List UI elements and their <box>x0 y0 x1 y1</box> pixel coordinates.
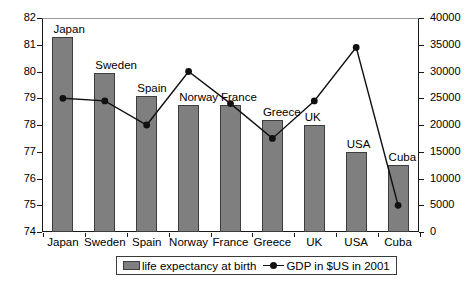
bar-swatch-icon <box>123 261 140 270</box>
y-right-tick-mark <box>419 45 424 46</box>
y-right-tick-mark <box>419 152 424 153</box>
y-right-tick-label: 15000 <box>430 146 461 157</box>
y-right-tick-mark <box>419 205 424 206</box>
y-left-tick-mark <box>37 232 42 233</box>
y-left-tick-label: 75 <box>24 199 36 210</box>
y-axis-left: 747576777879808182 <box>0 0 36 283</box>
legend-label-life-expectancy: life expectancy at birth <box>142 260 256 272</box>
point-annotation-label: Cuba <box>389 151 417 163</box>
y-right-tick-label: 10000 <box>430 173 461 184</box>
legend-item-life-expectancy: life expectancy at birth <box>123 260 256 272</box>
x-axis-category-label: Greece <box>251 236 293 248</box>
y-left-tick-label: 77 <box>24 146 36 157</box>
point-annotations: JapanSwedenSpainNorwayFranceGreeceUKUSAC… <box>42 18 419 232</box>
y-left-tick-label: 78 <box>24 119 36 130</box>
point-annotation-label: USA <box>347 138 371 150</box>
y-axis-right: 0500010000150002000025000300003500040000 <box>425 0 475 283</box>
legend-item-gdp: GDP in $US in 2001 <box>256 260 389 272</box>
point-annotation-label: Japan <box>53 23 84 35</box>
y-left-tick-label: 81 <box>24 39 36 50</box>
x-axis-category-label: Spain <box>126 236 168 248</box>
x-axis-category-label: Norway <box>168 236 210 248</box>
x-axis-category-label: USA <box>335 236 377 248</box>
combo-chart: 747576777879808182 050001000015000200002… <box>0 0 476 283</box>
y-right-tick-label: 0 <box>430 226 436 237</box>
y-right-tick-mark <box>419 98 424 99</box>
y-right-tick-label: 35000 <box>430 39 461 50</box>
y-right-tick-mark <box>419 72 424 73</box>
point-annotation-label: Sweden <box>95 59 137 71</box>
point-annotation-label: UK <box>305 111 321 123</box>
y-right-tick-mark <box>419 232 424 233</box>
legend-label-gdp: GDP in $US in 2001 <box>286 260 389 272</box>
point-annotation-label: France <box>221 91 257 103</box>
y-right-tick-mark <box>419 125 424 126</box>
x-axis-category-label: Sweden <box>84 236 126 248</box>
y-left-tick-label: 74 <box>24 226 36 237</box>
y-left-tick-label: 79 <box>24 92 36 103</box>
y-right-tick-label: 25000 <box>430 92 461 103</box>
x-axis-category-label: France <box>210 236 252 248</box>
x-axis-tick-mark <box>420 233 421 237</box>
y-left-tick-label: 76 <box>24 173 36 184</box>
point-annotation-label: Norway <box>179 91 218 103</box>
y-right-tick-label: 20000 <box>430 119 461 130</box>
point-annotation-label: Spain <box>137 82 166 94</box>
y-left-tick-label: 80 <box>24 66 36 77</box>
y-right-tick-label: 40000 <box>430 12 461 23</box>
y-right-tick-label: 5000 <box>430 199 454 210</box>
y-right-tick-mark <box>419 179 424 180</box>
line-marker-icon <box>263 261 284 270</box>
x-axis-category-label: UK <box>293 236 335 248</box>
point-annotation-label: Greece <box>263 106 301 118</box>
y-left-tick-label: 82 <box>24 12 36 23</box>
y-right-tick-mark <box>419 18 424 19</box>
x-axis-category-label: Japan <box>42 236 84 248</box>
y-right-tick-label: 30000 <box>430 66 461 77</box>
chart-legend: life expectancy at birth GDP in $US in 2… <box>116 256 397 275</box>
x-axis-category-label: Cuba <box>377 236 419 248</box>
